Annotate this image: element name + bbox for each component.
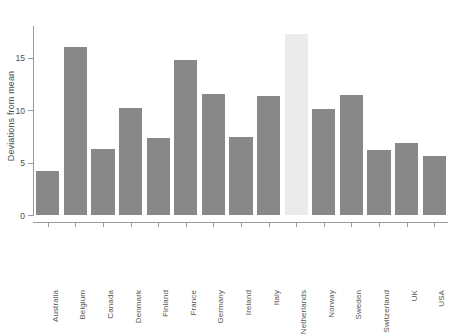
y-tick-label: 10 [16, 106, 25, 116]
x-tick-norway [324, 223, 325, 227]
x-tick-uk [407, 223, 408, 227]
x-label-belgium: Belgium [78, 290, 87, 320]
bar-finland [147, 138, 170, 215]
x-label-netherlands: Netherlands [299, 290, 308, 334]
y-tick-0: 0 [28, 215, 33, 216]
x-label-australia: Australia [51, 290, 60, 322]
bar-netherlands [285, 34, 308, 215]
x-tick-italy [269, 223, 270, 227]
x-tick-australia [48, 223, 49, 227]
bar-sweden [340, 95, 363, 215]
x-tick-sweden [351, 223, 352, 227]
x-axis-category-labels: AustraliaBelgiumCanadaDenmarkFinlandFran… [34, 230, 448, 293]
bar-italy [257, 96, 280, 215]
x-tick-usa [434, 223, 435, 227]
bar-denmark [119, 108, 142, 215]
bar-germany [202, 94, 225, 215]
y-tick-15: 15 [28, 58, 33, 59]
x-label-usa: USA [437, 290, 446, 307]
x-label-sweden: Sweden [354, 290, 363, 320]
x-label-norway: Norway [327, 290, 336, 318]
x-label-finland: Finland [161, 290, 170, 317]
x-tick-belgium [75, 223, 76, 227]
bar-ireland [229, 137, 252, 215]
bar-france [174, 60, 197, 215]
plot-area [34, 26, 448, 215]
x-label-canada: Canada [106, 290, 115, 319]
y-tick-label: 0 [20, 211, 25, 221]
x-tick-netherlands [296, 223, 297, 227]
x-label-uk: UK [410, 290, 419, 301]
bar-switzerland [367, 150, 390, 215]
x-label-denmark: Denmark [134, 290, 143, 323]
x-tick-denmark [131, 223, 132, 227]
y-axis-title: Deviations from mean [0, 0, 22, 232]
x-tick-germany [213, 223, 214, 227]
bar-australia [36, 171, 59, 215]
bar-uk [395, 143, 418, 215]
bar-canada [91, 149, 114, 215]
y-tick-label: 15 [16, 53, 25, 63]
x-label-ireland: Ireland [244, 290, 253, 315]
x-tick-finland [158, 223, 159, 227]
x-tick-switzerland [379, 223, 380, 227]
x-tick-ireland [241, 223, 242, 227]
y-tick-10: 10 [28, 110, 33, 111]
x-tick-canada [103, 223, 104, 227]
x-label-germany: Germany [216, 290, 225, 324]
x-label-france: France [189, 290, 198, 316]
y-axis-title-text: Deviations from mean [6, 71, 16, 162]
bar-belgium [64, 47, 87, 215]
bar-usa [423, 156, 446, 215]
x-label-italy: Italy [272, 290, 281, 305]
bar-norway [312, 109, 335, 215]
x-tick-france [186, 223, 187, 227]
y-tick-label: 5 [20, 158, 25, 168]
y-tick-5: 5 [28, 163, 33, 164]
x-label-switzerland: Switzerland [382, 290, 391, 332]
